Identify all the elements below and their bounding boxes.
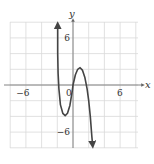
svg-text:x: x — [145, 79, 151, 90]
function-graph: xy −6066−6 — [0, 0, 154, 164]
svg-text:y: y — [68, 8, 75, 19]
svg-text:6: 6 — [117, 88, 123, 98]
svg-text:−6: −6 — [57, 127, 71, 137]
svg-text:−6: −6 — [16, 88, 30, 98]
svg-text:6: 6 — [64, 33, 70, 43]
